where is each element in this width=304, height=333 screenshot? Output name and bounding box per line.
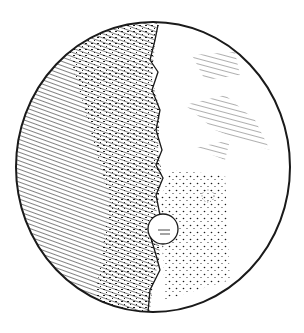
dark-hemisphere [0, 0, 162, 333]
moon-illustration: Engraved drawing of the Moon (half illum… [0, 0, 304, 333]
moon-drawing [0, 0, 304, 333]
bright-patches [160, 52, 270, 300]
crater-large [148, 214, 178, 244]
